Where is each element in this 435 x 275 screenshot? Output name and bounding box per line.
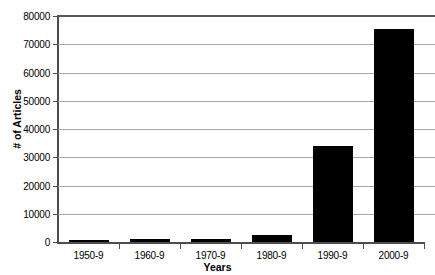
y-tick-label: 70000 xyxy=(23,39,50,50)
bar xyxy=(374,29,414,242)
x-tick-label: 2000-9 xyxy=(379,250,409,261)
y-tick-mark xyxy=(53,157,58,158)
y-tick-label: 30000 xyxy=(23,152,50,163)
x-tick-mark xyxy=(302,244,303,249)
x-tick-label: 1960-9 xyxy=(135,250,165,261)
y-tick-label: 40000 xyxy=(23,124,50,135)
x-tick-label: 1970-9 xyxy=(196,250,226,261)
bar xyxy=(69,240,109,242)
y-tick-mark xyxy=(53,129,58,130)
y-tick-label: 20000 xyxy=(23,180,50,191)
plot-top-rule xyxy=(58,15,435,17)
bar xyxy=(130,239,170,242)
x-tick-mark xyxy=(363,244,364,249)
bar-chart-figure: # of Articles Years 01000020000300004000… xyxy=(0,0,435,275)
bar xyxy=(313,146,353,242)
y-tick-mark xyxy=(53,73,58,74)
x-tick-mark xyxy=(119,244,120,249)
y-tick-mark xyxy=(53,214,58,215)
bar xyxy=(191,239,231,242)
y-tick-label: 60000 xyxy=(23,67,50,78)
x-tick-label: 1980-9 xyxy=(257,250,287,261)
x-tick-label: 1990-9 xyxy=(318,250,348,261)
plot-area: 0100002000030000400005000060000700008000… xyxy=(58,16,424,242)
y-tick-mark xyxy=(53,16,58,17)
x-axis-title: Years xyxy=(0,261,435,273)
y-tick-label: 80000 xyxy=(23,11,50,22)
x-tick-mark xyxy=(424,244,425,249)
y-axis-title: # of Articles xyxy=(11,59,23,179)
y-tick-mark xyxy=(53,242,58,243)
y-tick-mark xyxy=(53,101,58,102)
bar xyxy=(252,235,292,242)
y-tick-label: 0 xyxy=(45,237,50,248)
y-tick-label: 50000 xyxy=(23,95,50,106)
y-tick-label: 10000 xyxy=(23,208,50,219)
x-tick-mark xyxy=(241,244,242,249)
x-tick-mark xyxy=(180,244,181,249)
y-tick-mark xyxy=(53,44,58,45)
x-tick-label: 1950-9 xyxy=(74,250,104,261)
y-tick-mark xyxy=(53,186,58,187)
